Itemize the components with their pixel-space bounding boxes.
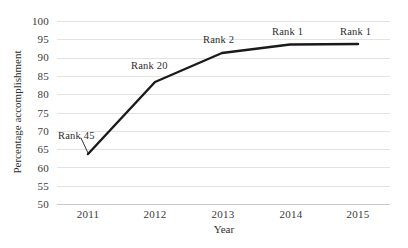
y-tick-label-85: 85 bbox=[3, 70, 49, 82]
y-tick-label-50: 50 bbox=[3, 198, 49, 210]
x-tick-label-2012: 2012 bbox=[125, 208, 185, 220]
y-tick-label-70: 70 bbox=[3, 125, 49, 137]
gridline-65 bbox=[57, 149, 390, 150]
y-tick-label-60: 60 bbox=[3, 162, 49, 174]
x-tick-label-2014: 2014 bbox=[261, 208, 321, 220]
gridline-90 bbox=[57, 58, 390, 59]
y-tick-label-90: 90 bbox=[3, 51, 49, 63]
line-chart: Percentage accomplishment 100 95 90 85 8… bbox=[0, 0, 408, 248]
point-label-2014: Rank 1 bbox=[272, 26, 303, 37]
x-tick-label-2011: 2011 bbox=[58, 208, 118, 220]
gridline-70 bbox=[57, 131, 390, 132]
point-label-2011: Rank 45 bbox=[58, 130, 95, 141]
gridline-75 bbox=[57, 113, 390, 114]
y-tick-label-95: 95 bbox=[3, 33, 49, 45]
x-tick-label-2013: 2013 bbox=[193, 208, 253, 220]
x-tick-label-2015: 2015 bbox=[328, 208, 388, 220]
gridline-60 bbox=[57, 167, 390, 168]
x-axis-line bbox=[57, 204, 390, 205]
y-tick-label-75: 75 bbox=[3, 107, 49, 119]
y-tick-label-65: 65 bbox=[3, 143, 49, 155]
x-axis-title-wrap: Year bbox=[0, 223, 408, 235]
y-tick-label-55: 55 bbox=[3, 180, 49, 192]
plot-area bbox=[57, 21, 390, 205]
point-label-2013: Rank 2 bbox=[203, 34, 234, 45]
gridline-55 bbox=[57, 186, 390, 187]
x-axis-title: Year bbox=[214, 223, 234, 235]
gridline-85 bbox=[57, 76, 390, 77]
y-tick-label-100: 100 bbox=[3, 15, 49, 27]
point-label-2015: Rank 1 bbox=[340, 26, 371, 37]
point-label-2012: Rank 20 bbox=[131, 60, 168, 71]
y-tick-label-80: 80 bbox=[3, 88, 49, 100]
gridline-80 bbox=[57, 94, 390, 95]
gridline-100 bbox=[57, 21, 390, 22]
